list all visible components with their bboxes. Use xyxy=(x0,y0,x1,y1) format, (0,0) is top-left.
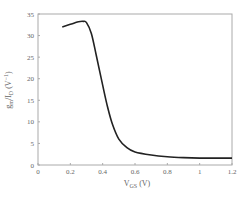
y-tick-label: 0 xyxy=(31,162,35,170)
y-tick-label: 25 xyxy=(27,54,35,62)
x-tick-label: 0.2 xyxy=(66,168,75,176)
y-axis-label: gm/ID (V−1) xyxy=(3,71,14,109)
y-tick-label: 15 xyxy=(27,97,35,105)
data-line xyxy=(62,21,232,158)
x-tick-label: 1.2 xyxy=(228,168,237,176)
y-tick-label: 5 xyxy=(31,140,35,148)
y-tick-label: 35 xyxy=(27,11,35,19)
x-tick-label: 0.6 xyxy=(131,168,140,176)
x-axis-label: VGS (V) xyxy=(124,179,151,189)
x-tick-label: 0.8 xyxy=(163,168,172,176)
y-tick-label: 10 xyxy=(27,118,35,126)
y-tick-label: 20 xyxy=(27,75,35,83)
x-tick-label: 1 xyxy=(198,168,202,176)
x-tick-label: 0 xyxy=(36,168,40,176)
plot-frame xyxy=(38,14,232,165)
x-tick-label: 0.4 xyxy=(98,168,107,176)
line-chart: 00.20.40.60.811.2 05101520253035 VGS (V)… xyxy=(0,0,250,198)
y-tick-label: 30 xyxy=(27,32,35,40)
